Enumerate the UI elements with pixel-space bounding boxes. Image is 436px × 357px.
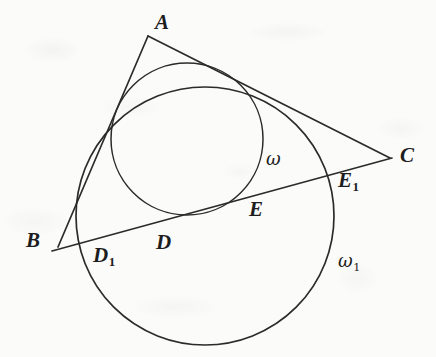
circle-omega1 (76, 87, 334, 345)
circle-label-omega: ω (266, 150, 281, 168)
point-label-e: E (249, 199, 263, 220)
segment-ac (148, 36, 390, 158)
segments-group (52, 36, 392, 251)
point-label-d: D (156, 232, 171, 253)
point-label-c: C (400, 145, 414, 166)
point-label-b: B (26, 230, 40, 251)
geometry-canvas (0, 0, 436, 357)
circle-label-omega1: ω1 (338, 252, 360, 273)
geometry-figure: A B C D D1 E E1 ω ω1 (0, 0, 436, 357)
point-label-a: A (155, 12, 169, 33)
point-label-d1: D1 (93, 245, 115, 268)
circle-omega (111, 63, 263, 215)
circles-group (76, 63, 334, 345)
segment-ab (58, 36, 148, 247)
point-label-e1: E1 (338, 170, 359, 193)
